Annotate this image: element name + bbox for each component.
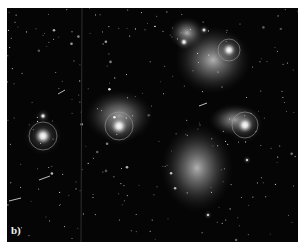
faint-star — [277, 157, 278, 158]
faint-star — [259, 61, 260, 62]
faint-star — [211, 138, 212, 139]
faint-star — [62, 174, 63, 175]
faint-star — [108, 88, 111, 91]
faint-star — [199, 124, 200, 125]
bright-star — [202, 28, 207, 33]
faint-star — [248, 205, 249, 206]
faint-star — [147, 23, 148, 24]
bright-star — [206, 213, 210, 217]
faint-star — [77, 35, 80, 38]
faint-star — [71, 99, 72, 100]
faint-star — [217, 222, 218, 223]
faint-star — [261, 58, 262, 59]
faint-star — [10, 182, 11, 183]
faint-star — [7, 81, 8, 82]
faint-star — [190, 29, 191, 30]
faint-star — [210, 187, 211, 188]
faint-star — [297, 11, 298, 12]
faint-star — [10, 144, 11, 145]
faint-star — [239, 23, 240, 24]
faint-star — [231, 184, 232, 185]
faint-star — [287, 62, 288, 63]
faint-star — [97, 108, 98, 109]
faint-star — [183, 40, 184, 41]
faint-star — [78, 94, 79, 95]
faint-star — [82, 169, 83, 170]
faint-star — [83, 213, 84, 214]
faint-star — [278, 15, 279, 16]
faint-star — [288, 215, 289, 216]
faint-star — [88, 88, 89, 89]
faint-star — [102, 31, 103, 32]
faint-star — [79, 64, 80, 65]
faint-star — [167, 218, 168, 219]
faint-star — [255, 131, 256, 132]
faint-star — [221, 86, 222, 87]
satellite-trail — [58, 90, 65, 94]
faint-star — [171, 150, 172, 151]
faint-star — [162, 166, 163, 167]
faint-star — [280, 28, 281, 29]
faint-star — [264, 118, 265, 119]
satellite-trail — [39, 176, 50, 180]
faint-star — [199, 122, 200, 123]
bright-star — [180, 38, 187, 45]
bright-star — [40, 113, 46, 119]
faint-star — [266, 61, 267, 62]
faint-star — [286, 111, 287, 112]
star-field — [7, 8, 298, 242]
faint-star — [135, 96, 136, 97]
faint-star — [138, 185, 139, 186]
faint-star — [156, 16, 157, 17]
faint-star — [162, 31, 163, 32]
faint-star — [105, 170, 108, 173]
faint-star — [123, 185, 124, 186]
faint-star — [48, 42, 49, 43]
faint-star — [33, 129, 34, 130]
faint-star — [148, 114, 151, 117]
faint-star — [155, 239, 156, 240]
faint-star — [35, 28, 36, 29]
faint-star — [55, 72, 56, 73]
faint-star — [96, 151, 99, 154]
faint-star — [62, 81, 63, 82]
faint-star — [154, 26, 155, 27]
faint-star — [12, 68, 13, 69]
faint-star — [37, 168, 38, 169]
faint-star — [7, 55, 8, 56]
faint-star — [59, 192, 60, 193]
faint-star — [129, 36, 130, 37]
faint-star — [260, 145, 261, 146]
faint-star — [217, 145, 218, 146]
faint-star — [70, 43, 73, 46]
faint-star — [144, 29, 145, 30]
faint-star — [244, 115, 245, 116]
faint-star — [121, 168, 122, 169]
faint-star — [225, 220, 226, 221]
faint-star — [258, 111, 259, 112]
faint-star — [174, 187, 177, 190]
faint-star — [126, 117, 127, 118]
faint-star — [60, 204, 61, 205]
faint-star — [17, 27, 18, 28]
faint-star — [202, 232, 203, 233]
faint-star — [181, 32, 182, 33]
faint-star — [218, 207, 219, 208]
faint-star — [257, 182, 258, 183]
nebula — [161, 124, 233, 212]
faint-star — [226, 41, 227, 42]
faint-star — [26, 31, 27, 32]
faint-star — [38, 188, 39, 189]
faint-star — [192, 70, 193, 71]
faint-star — [230, 208, 231, 209]
faint-star — [88, 163, 89, 164]
faint-star — [156, 186, 157, 187]
faint-star — [52, 120, 53, 121]
faint-star — [113, 116, 116, 119]
faint-star — [29, 124, 30, 125]
faint-star — [109, 83, 110, 84]
faint-star — [42, 35, 43, 36]
faint-star — [106, 142, 109, 145]
faint-star — [223, 181, 224, 182]
faint-star — [260, 90, 261, 91]
